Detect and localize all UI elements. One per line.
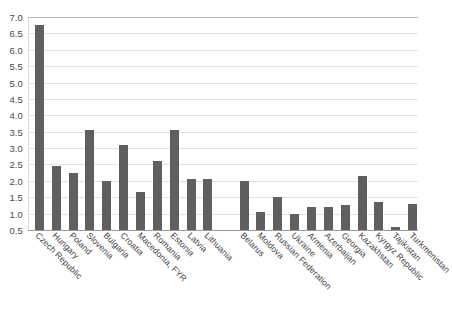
y-axis-tick-label: 7.0: [9, 12, 23, 23]
y-axis-tick-labels: 7.06.56.05.55.04.54.03.53.02.52.01.51.00…: [0, 17, 26, 230]
y-axis-tick-label: 5.5: [9, 61, 23, 72]
bar: [85, 130, 94, 230]
bar: [273, 197, 282, 230]
bar: [358, 176, 367, 230]
y-axis-tick-label: 4.0: [9, 110, 23, 121]
bar: [408, 204, 417, 230]
bar: [307, 207, 316, 230]
bar: [52, 166, 61, 230]
bar: [203, 179, 212, 230]
bar-series: [28, 17, 418, 230]
y-axis-tick-label: 2.5: [9, 159, 23, 170]
bar: [374, 202, 383, 230]
x-axis-category-labels: Czech RepublicHungaryPolandSloveniaBulga…: [28, 231, 418, 311]
y-axis-tick-label: 6.5: [9, 28, 23, 39]
bar: [35, 25, 44, 230]
bar: [256, 212, 265, 230]
bar: [102, 181, 111, 230]
y-axis-tick-label: 1.5: [9, 192, 23, 203]
bar: [136, 192, 145, 230]
y-axis-tick-label: 6.0: [9, 44, 23, 55]
bar: [341, 205, 350, 230]
chart-title-remnant: [30, 0, 180, 2]
y-axis-tick-label: 1.0: [9, 208, 23, 219]
bar: [391, 227, 400, 230]
plot-area: [28, 17, 418, 230]
y-axis-tick-label: 4.5: [9, 93, 23, 104]
bar: [290, 214, 299, 230]
y-axis-tick-label: 2.0: [9, 175, 23, 186]
y-axis-tick-label: 5.0: [9, 77, 23, 88]
bar: [153, 161, 162, 230]
y-axis-tick-label: 3.0: [9, 143, 23, 154]
bar: [170, 130, 179, 230]
bar: [324, 207, 333, 230]
bar: [187, 179, 196, 230]
y-axis-tick-label: 3.5: [9, 126, 23, 137]
bar: [69, 173, 78, 230]
bar: [240, 181, 249, 230]
bar: [119, 145, 128, 230]
y-axis-tick-label: 0.5: [9, 225, 23, 236]
